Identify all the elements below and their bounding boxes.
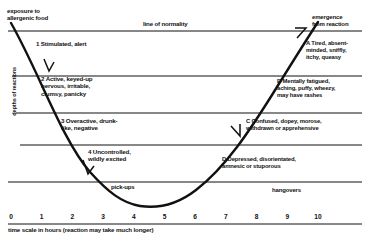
recovery-band-c-label: C Confused, dopey, morose, withdrawn or … [246,118,322,132]
reaction-curve-path [11,22,318,207]
descent-band-3-label: 3 Overactive, drunk- like, negative [61,117,118,132]
x-tick-2: 2 [71,213,75,220]
x-tick-3: 3 [101,213,105,220]
x-tick-4: 4 [132,213,136,220]
emergence-annotation: emergence from reaction [312,14,348,28]
pickups-label: pick-ups [111,184,134,191]
hangovers-label: hangovers [272,187,301,194]
x-tick-10: 10 [314,213,321,220]
recovery-arrow-icon-lower [231,124,240,136]
x-tick-7: 7 [224,213,228,220]
descent-band-1-label: 1 Stimulated, alert [36,40,86,47]
y-axis-label: depths of reactions [11,60,18,122]
recovery-band-b-label: B Mentally fatigued, aching, puffy, whee… [277,78,335,99]
descent-band-2-label: 2 Active, keyed-up nervous, irritable, c… [41,75,92,97]
x-tick-1: 1 [40,213,44,220]
x-tick-6: 6 [193,213,197,220]
x-tick-9: 9 [285,213,289,220]
recovery-arrow-icon-upper [295,28,306,38]
descent-band-4-label: 4 Uncontrolled, wildly excited [88,148,131,163]
x-axis-label: time scale in hours (reaction may take m… [8,226,153,233]
line-of-normality-label: line of normality [143,20,188,27]
recovery-band-a-label: A Tired, absent- minded, sniffly, itchy,… [306,40,348,61]
x-tick-8: 8 [255,213,259,220]
x-tick-5: 5 [163,213,167,220]
descent-arrow-icon-upper [44,59,54,71]
x-tick-0: 0 [9,213,13,220]
recovery-band-d-label: D Depressed, disorientated, amnesic or s… [222,156,296,170]
exposure-annotation: exposure to allergenic food [7,7,48,21]
